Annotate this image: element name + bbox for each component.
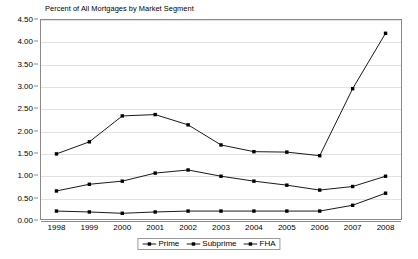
data-point-marker (55, 152, 58, 155)
series-line-top-line (56, 33, 385, 155)
legend-item-subprime: Subprime (186, 240, 236, 248)
x-axis-tick-label: 2005 (278, 223, 296, 232)
data-point-marker (153, 210, 156, 213)
x-axis-tick-label: 2003 (212, 223, 230, 232)
x-axis-tick-label: 1998 (48, 223, 66, 232)
series-line-middle-line (56, 170, 385, 191)
legend-marker-icon (186, 240, 200, 248)
legend-item-fha: FHA (244, 240, 276, 248)
x-axis-tick-label: 2006 (311, 223, 329, 232)
data-point-marker (88, 210, 91, 213)
data-point-marker (252, 209, 255, 212)
x-axis-tick-label: 2008 (377, 223, 395, 232)
legend-item-prime: Prime (142, 240, 179, 248)
x-axis-tick-label: 1999 (80, 223, 98, 232)
data-point-marker (219, 209, 222, 212)
data-point-marker (318, 209, 321, 212)
data-point-marker (121, 179, 124, 182)
x-axis-tick-label: 2007 (344, 223, 362, 232)
legend-label: Prime (158, 240, 179, 248)
data-point-marker (186, 123, 189, 126)
data-point-marker (318, 188, 321, 191)
x-axis-tick-label: 2002 (179, 223, 197, 232)
legend-label: FHA (260, 240, 276, 248)
data-point-marker (88, 140, 91, 143)
data-point-marker (121, 114, 124, 117)
legend-marker-icon (244, 240, 258, 248)
data-point-marker (55, 209, 58, 212)
data-point-marker (384, 175, 387, 178)
data-point-marker (285, 183, 288, 186)
x-axis-tick-label: 2001 (146, 223, 164, 232)
data-point-marker (55, 189, 58, 192)
data-point-marker (384, 192, 387, 195)
series-layer (0, 0, 418, 259)
data-point-marker (186, 168, 189, 171)
data-point-marker (121, 212, 124, 215)
data-point-marker (186, 209, 189, 212)
data-point-marker (351, 87, 354, 90)
mortgage-market-segment-chart: Percent of All Mortgages by Market Segme… (0, 0, 418, 259)
data-point-marker (219, 143, 222, 146)
x-axis: 1998199920002001200220032004200520062007… (40, 222, 402, 236)
data-point-marker (351, 204, 354, 207)
data-point-marker (153, 171, 156, 174)
data-point-marker (285, 209, 288, 212)
data-point-marker (384, 32, 387, 35)
data-point-marker (219, 175, 222, 178)
data-point-marker (351, 185, 354, 188)
x-axis-tick-label: 2000 (113, 223, 131, 232)
legend-marker-icon (142, 240, 156, 248)
legend-label: Subprime (202, 240, 236, 248)
data-point-marker (153, 113, 156, 116)
data-point-marker (285, 150, 288, 153)
data-point-marker (318, 154, 321, 157)
data-point-marker (252, 150, 255, 153)
data-point-marker (88, 183, 91, 186)
x-axis-tick-label: 2004 (245, 223, 263, 232)
data-point-marker (252, 179, 255, 182)
chart-legend: PrimeSubprimeFHA (137, 238, 280, 250)
